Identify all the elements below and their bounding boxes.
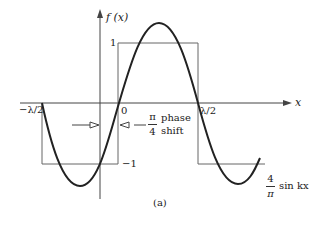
sine-wave xyxy=(42,23,260,186)
curve-label-denominator: π xyxy=(267,189,274,199)
tick-label-minus-one: −1 xyxy=(122,159,137,169)
x-axis-label: x xyxy=(295,97,301,108)
phase-shift-numerator: π xyxy=(149,112,156,122)
curve-label-text: sin kx xyxy=(279,181,309,191)
phase-shift-text-line2: shift xyxy=(161,126,184,136)
tick-label-minus-half-wavelength: −λ/2 xyxy=(19,105,43,115)
tick-label-origin: 0 xyxy=(121,106,127,116)
arrow-right-icon xyxy=(90,122,99,128)
curve-label-numerator: 4 xyxy=(267,174,273,184)
y-axis-arrow-icon xyxy=(97,9,103,18)
figure-caption: (a) xyxy=(153,198,167,208)
curve-label-fraction: 4 π xyxy=(266,174,275,199)
phase-shift-denominator: 4 xyxy=(149,127,155,137)
x-axis xyxy=(20,100,292,106)
tick-label-one: 1 xyxy=(110,38,116,48)
phase-shift-text-line1: phase xyxy=(161,113,191,123)
phase-shift-arrows xyxy=(72,122,146,128)
arrow-left-icon xyxy=(120,122,129,128)
tick-label-half-wavelength: λ/2 xyxy=(200,106,216,116)
y-axis-label: f (x) xyxy=(106,12,128,23)
x-axis-arrow-icon xyxy=(283,100,292,106)
phase-shift-fraction: π 4 xyxy=(148,112,157,137)
